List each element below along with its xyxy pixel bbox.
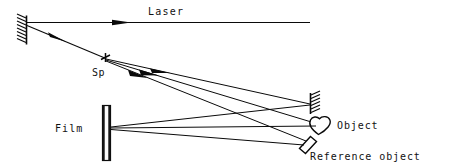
ray-splitter-to-mirror-right	[106, 59, 310, 104]
ray-reference-to-film	[111, 130, 304, 146]
label-reference-object: Reference object	[310, 151, 421, 162]
ray-mirror-right-to-film	[111, 105, 310, 127]
label-splitter: Sp	[92, 67, 105, 78]
film-left-edge	[103, 106, 105, 161]
mirror-to-splitter-arrowhead	[48, 32, 66, 42]
splitter-to-mirror-right-line	[106, 59, 310, 104]
ray-mirror-to-splitter	[27, 26, 106, 59]
reference-to-film-line	[111, 130, 304, 146]
mirror-to-splitter-line	[27, 26, 106, 59]
ray-laser-beam	[26, 20, 310, 25]
mirror-right-to-film-line	[111, 105, 310, 127]
ray-object-to-film	[111, 126, 316, 128]
mirror-left	[17, 14, 27, 45]
mirror-right	[311, 91, 321, 114]
label-object: Object	[337, 120, 379, 131]
splitter-to-reference-line	[106, 61, 306, 141]
label-film: Film	[55, 123, 83, 134]
label-laser: Laser	[148, 6, 184, 17]
film-plate	[103, 106, 111, 161]
mirror-right-hatching	[311, 91, 320, 113]
optics-diagram-canvas: Laser Sp	[0, 0, 455, 168]
mirror-left-hatching	[17, 14, 26, 43]
ray-splitter-to-reference	[106, 61, 306, 141]
optics-diagram: Laser Sp	[0, 0, 455, 168]
splitter-to-object-line	[106, 60, 318, 124]
laser-beam-arrowhead	[112, 20, 131, 25]
object-to-film-line	[111, 126, 316, 128]
film-right-edge	[108, 106, 110, 161]
ray-splitter-to-object	[106, 60, 318, 124]
